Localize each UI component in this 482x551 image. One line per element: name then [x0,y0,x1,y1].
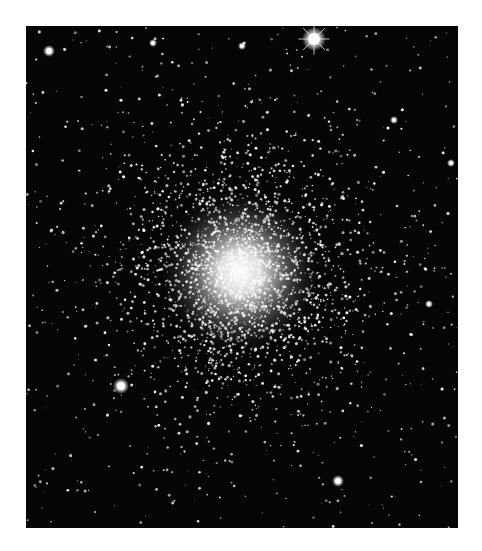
cluster-core [155,187,325,357]
star-cluster-photo [26,26,458,528]
star-field [26,26,458,528]
